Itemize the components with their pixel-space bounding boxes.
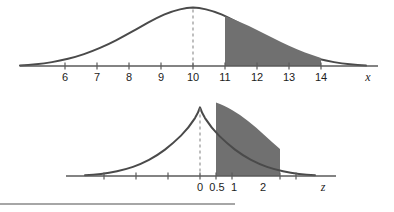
- tick-label-z-0: 0: [197, 181, 203, 193]
- tick-label-6: 6: [62, 71, 68, 83]
- tick-label-11: 11: [219, 71, 230, 83]
- top-chart-shaded-area-fill: [225, 16, 321, 66]
- tick-label-12: 12: [251, 71, 263, 83]
- tick-label-z-2: 2: [260, 181, 266, 193]
- tick-label-14: 14: [315, 71, 327, 83]
- tick-label-z-1: 1: [231, 181, 237, 193]
- tick-label-13: 13: [283, 71, 295, 83]
- top-chart-group: 6 7 8 9 10 11 12 13 14 x: [20, 8, 378, 84]
- tick-label-10: 10: [187, 71, 199, 83]
- bottom-chart-shaded-area: [216, 103, 280, 176]
- normal-curve-figure: 6 7 8 9 10 11 12 13 14 x: [0, 0, 394, 212]
- bottom-chart-tick-labels: 0 0.5 1 2: [197, 181, 266, 193]
- top-chart-axis-variable-label: x: [364, 70, 371, 84]
- top-chart-tick-labels: 6 7 8 9 10 11 12 13 14: [62, 71, 327, 83]
- tick-label-z-0-5: 0.5: [209, 181, 224, 193]
- tick-label-8: 8: [126, 71, 132, 83]
- figure-canvas: 6 7 8 9 10 11 12 13 14 x: [0, 0, 394, 212]
- tick-label-7: 7: [94, 71, 100, 83]
- bottom-chart-axis-variable-label: z: [320, 180, 326, 194]
- bottom-chart-group: 0 0.5 1 2 z: [66, 103, 336, 194]
- tick-label-9: 9: [158, 71, 164, 83]
